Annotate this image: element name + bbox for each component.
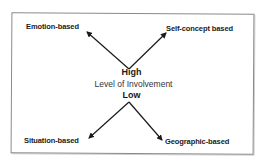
node-situation-based: Situation-based bbox=[24, 136, 79, 145]
involvement-high-label: High bbox=[0, 67, 259, 77]
involvement-low-label: Low bbox=[0, 90, 259, 100]
arrow-low-to-geographic bbox=[129, 102, 162, 140]
arrow-low-to-situation bbox=[89, 102, 129, 138]
node-geographic-based: Geographic-based bbox=[165, 137, 229, 146]
arrow-high-to-self-concept bbox=[129, 33, 166, 69]
node-emotion-based: Emotion-based bbox=[26, 22, 79, 31]
arrow-high-to-emotion bbox=[87, 32, 129, 69]
node-self-concept-based: Self-concept based bbox=[166, 24, 233, 33]
involvement-axis-label: Level of Involvement bbox=[0, 79, 259, 89]
